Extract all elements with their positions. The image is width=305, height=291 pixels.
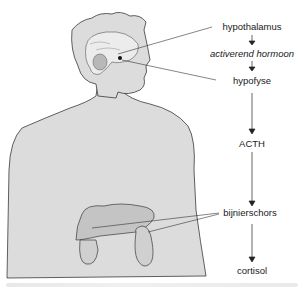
torso (7, 82, 206, 278)
label-activerend-hormoon: activerend hormoon (210, 49, 294, 59)
label-hypofyse: hypofyse (233, 76, 271, 86)
label-cortisol: cortisol (237, 266, 267, 276)
label-bijnierschors: bijnierschors (223, 208, 276, 218)
faint-caption-line (6, 283, 298, 287)
label-hypothalamus: hypothalamus (222, 22, 281, 32)
label-acth: ACTH (239, 139, 265, 149)
